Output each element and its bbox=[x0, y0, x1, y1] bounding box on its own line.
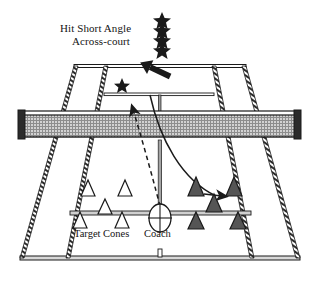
court-graphic bbox=[0, 0, 320, 302]
net-post-right bbox=[294, 110, 301, 139]
drill-title-line-2: Across-court bbox=[72, 35, 130, 48]
far-baseline bbox=[74, 65, 246, 68]
target-cones-label: Target Cones bbox=[74, 228, 129, 240]
net bbox=[18, 110, 301, 139]
difficulty-stars bbox=[153, 12, 171, 59]
star-icon bbox=[153, 42, 171, 59]
tennis-drill-diagram: Hit Short Angle Across-court Target Cone… bbox=[0, 0, 320, 302]
coach-label: Coach bbox=[144, 228, 171, 240]
net-mesh bbox=[22, 113, 298, 137]
net-post-left bbox=[18, 110, 25, 139]
net-tape bbox=[22, 111, 298, 115]
drill-title-line-1: Hit Short Angle bbox=[60, 22, 131, 35]
